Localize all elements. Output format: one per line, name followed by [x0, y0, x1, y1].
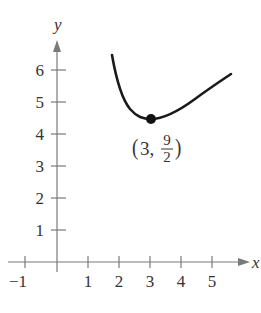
paren-close: ): [175, 134, 181, 161]
y-axis-label: y: [52, 15, 62, 34]
minimum-point-label: ( 3, 9 2 ): [132, 132, 181, 165]
y-axis-arrow-icon: [53, 40, 61, 52]
x-axis-arrow-icon: [238, 258, 250, 266]
x-tick-label: 2: [115, 272, 124, 291]
fraction-numerator: 9: [163, 132, 171, 148]
y-tick-label: 5: [36, 93, 45, 112]
point-x-value: 3,: [140, 138, 154, 159]
y-tick-label: 4: [36, 125, 45, 144]
y-tick-label: 6: [36, 61, 45, 80]
x-tick-label: 3: [146, 272, 155, 291]
y-tick-label: 2: [36, 189, 45, 208]
function-curve: [112, 55, 231, 119]
minimum-point: [146, 114, 156, 124]
y-ticks: [51, 70, 66, 230]
y-tick-label: 3: [36, 157, 45, 176]
x-tick-label: 1: [84, 272, 93, 291]
x-tick-labels: −1 1 2 3 4 5: [9, 272, 216, 291]
graph-svg: x y −1 1 2 3 4 5: [0, 0, 261, 313]
y-tick-labels: 1 2 3 4 5 6: [36, 61, 45, 240]
graph-figure: x y −1 1 2 3 4 5: [0, 0, 261, 313]
x-tick-label: 4: [177, 272, 186, 291]
fraction-denominator: 2: [163, 149, 171, 165]
x-axis-label: x: [251, 253, 260, 272]
x-tick-label: 5: [208, 272, 217, 291]
y-tick-label: 1: [36, 221, 45, 240]
paren-open: (: [132, 134, 138, 161]
x-tick-label: −1: [9, 272, 27, 291]
